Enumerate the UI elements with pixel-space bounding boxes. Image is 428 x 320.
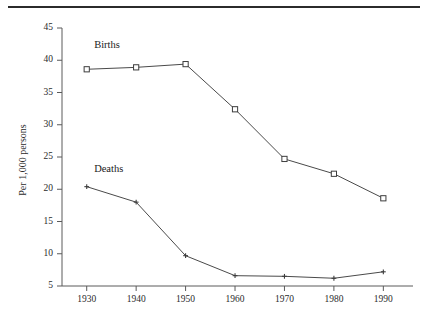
y-tick-label: 10 xyxy=(44,248,54,258)
x-tick-label: 1930 xyxy=(77,294,96,304)
data-point-marker xyxy=(232,107,237,112)
data-point-marker xyxy=(84,184,89,189)
data-point-marker xyxy=(381,269,386,274)
series-line-births xyxy=(87,64,384,198)
y-tick-label: 35 xyxy=(44,87,54,97)
x-tick-label: 1990 xyxy=(374,294,393,304)
data-series-group xyxy=(84,62,386,281)
y-tick-label: 15 xyxy=(44,216,54,226)
series-inline-labels: BirthsDeaths xyxy=(94,39,123,174)
data-point-marker xyxy=(183,62,188,67)
data-point-marker xyxy=(282,274,287,279)
y-tick-label: 45 xyxy=(44,22,54,32)
y-tick-label: 30 xyxy=(44,119,54,129)
y-axis-title: Per 1,000 persons xyxy=(17,124,28,195)
x-axis: 1930194019501960197019801990 xyxy=(62,286,413,304)
y-tick-label: 20 xyxy=(44,183,54,193)
y-tick-label: 40 xyxy=(44,54,54,64)
x-tick-label: 1940 xyxy=(127,294,146,304)
y-tick-label: 25 xyxy=(44,151,54,161)
y-tick-label: 5 xyxy=(48,280,53,290)
data-point-marker xyxy=(332,276,337,281)
data-point-marker xyxy=(331,171,336,176)
y-axis: 51015202530354045 xyxy=(44,22,63,290)
data-point-marker xyxy=(84,67,89,72)
line-chart-svg: 51015202530354045 1930194019501960197019… xyxy=(0,0,428,320)
x-tick-label: 1950 xyxy=(176,294,195,304)
x-tick-label: 1970 xyxy=(275,294,294,304)
data-point-marker xyxy=(381,196,386,201)
x-tick-label: 1960 xyxy=(226,294,245,304)
data-point-marker xyxy=(233,273,238,278)
data-point-marker xyxy=(134,65,139,70)
series-label-deaths: Deaths xyxy=(94,163,123,174)
series-line-deaths xyxy=(87,187,384,279)
x-tick-label: 1980 xyxy=(324,294,343,304)
series-label-births: Births xyxy=(94,39,120,50)
chart-figure: 51015202530354045 1930194019501960197019… xyxy=(0,0,428,320)
data-point-marker xyxy=(282,156,287,161)
